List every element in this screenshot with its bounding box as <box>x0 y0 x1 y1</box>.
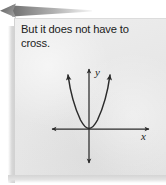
x-axis-label: x <box>140 130 146 142</box>
y-axis-label: y <box>94 66 100 78</box>
panel-shadow-bottom <box>8 175 166 183</box>
callout-caption: But it does not have to cross. <box>21 23 159 50</box>
callout-panel: But it does not have to cross. y x <box>14 18 166 175</box>
screenshot-root: But it does not have to cross. y x <box>0 0 166 185</box>
parabola-graph: y x <box>27 51 161 169</box>
